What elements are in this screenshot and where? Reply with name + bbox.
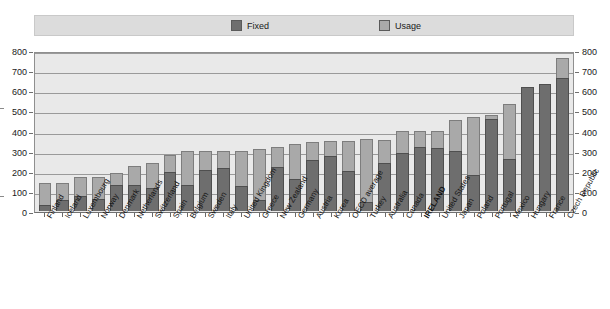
bar-column[interactable] xyxy=(378,53,391,211)
bar-column[interactable] xyxy=(556,53,569,211)
y-axis-tick-mark xyxy=(575,92,579,93)
bar-segment-fixed xyxy=(521,87,534,211)
bar-segment-usage xyxy=(556,58,569,78)
y-axis-tick-mark xyxy=(29,92,33,93)
bar-column[interactable] xyxy=(467,53,480,211)
bar-segment-usage xyxy=(181,151,194,185)
bar-column[interactable] xyxy=(521,53,534,211)
bar-segment-usage xyxy=(306,142,319,160)
bar-segment-usage xyxy=(378,140,391,163)
bar-column[interactable] xyxy=(56,53,69,211)
legend-item-usage: Usage xyxy=(379,20,421,31)
y-axis-tick-mark xyxy=(29,173,33,174)
legend-label-usage: Usage xyxy=(395,21,421,31)
bar-column[interactable] xyxy=(217,53,230,211)
y-axis-tick-label: 400 xyxy=(582,128,608,138)
y-axis-tick-label: 600 xyxy=(1,87,27,97)
y-axis-tick-label: 700 xyxy=(1,67,27,77)
chart-legend: Fixed Usage xyxy=(34,15,574,36)
plot-area xyxy=(34,52,574,213)
y-axis-tick-mark xyxy=(29,112,33,113)
y-axis-tick-label: 800 xyxy=(582,47,608,57)
bar-column[interactable] xyxy=(271,53,284,211)
grouped-bar-chart: Fixed Usage 8007006005004003002001000 80… xyxy=(0,0,610,309)
y-axis-tick-label: 500 xyxy=(1,107,27,117)
bar-segment-usage xyxy=(503,104,516,158)
y-axis-tick-mark xyxy=(29,52,33,53)
legend-label-fixed: Fixed xyxy=(247,21,269,31)
y-axis-tick-label: 0 xyxy=(1,208,27,218)
bar-segment-usage xyxy=(289,144,302,179)
y-axis-tick-mark xyxy=(575,133,579,134)
y-axis-tick-mark xyxy=(575,52,579,53)
bar-segment-usage xyxy=(449,120,462,150)
bar-column[interactable] xyxy=(39,53,52,211)
bar-column[interactable] xyxy=(503,53,516,211)
bar-segment-usage xyxy=(235,151,248,186)
y-axis-tick-label: 100 xyxy=(1,188,27,198)
y-axis-tick-mark xyxy=(29,133,33,134)
legend-item-fixed: Fixed xyxy=(231,20,269,31)
y-axis-tick-label: 600 xyxy=(582,87,608,97)
bar-segment-usage xyxy=(128,166,141,186)
bar-column[interactable] xyxy=(181,53,194,211)
y-axis-tick-mark xyxy=(29,72,33,73)
bar-column[interactable] xyxy=(414,53,427,211)
bar-segment-usage xyxy=(467,117,480,174)
bar-segment-usage xyxy=(324,141,337,156)
bar-column[interactable] xyxy=(235,53,248,211)
bar-segment-usage xyxy=(164,155,177,172)
y-axis-tick-label: 300 xyxy=(582,148,608,158)
bar-column[interactable] xyxy=(324,53,337,211)
bar-column[interactable] xyxy=(74,53,87,211)
bar-segment-usage xyxy=(414,131,427,147)
y-axis-tick-label: 400 xyxy=(1,128,27,138)
y-axis-tick-mark xyxy=(29,193,33,194)
plot-area-wrapper xyxy=(34,52,574,213)
y-axis-tick-label: 0 xyxy=(582,208,608,218)
y-axis-tick-mark xyxy=(29,153,33,154)
y-axis-tick-mark xyxy=(575,173,579,174)
y-axis-tick-mark xyxy=(575,153,579,154)
square-swatch-icon xyxy=(231,20,242,31)
bar-segment-usage xyxy=(217,151,230,169)
y-axis-tick-mark xyxy=(575,112,579,113)
bar-column[interactable] xyxy=(342,53,355,211)
y-axis-tick-mark xyxy=(29,213,33,214)
bar-segment-usage xyxy=(110,173,123,185)
bar-column[interactable] xyxy=(539,53,552,211)
y-axis-tick-label: 700 xyxy=(582,67,608,77)
bar-segment-usage xyxy=(396,131,409,153)
y-axis-tick-mark xyxy=(575,72,579,73)
y-axis-tick-label: 300 xyxy=(1,148,27,158)
bar-column[interactable] xyxy=(485,53,498,211)
x-axis-labels: FinlandIcelandLuxembourgNorwayDenmarkNet… xyxy=(34,216,574,308)
bar-segment-fixed xyxy=(556,78,569,211)
square-swatch-icon xyxy=(379,20,390,31)
bar-segment-usage xyxy=(39,183,52,205)
y-axis-tick-label: 500 xyxy=(582,107,608,117)
bar-segment-usage xyxy=(342,141,355,171)
bar-segment-usage xyxy=(271,147,284,167)
bar-column[interactable] xyxy=(199,53,212,211)
y-axis-tick-label: 200 xyxy=(1,168,27,178)
bar-segment-usage xyxy=(431,131,444,148)
bar-column[interactable] xyxy=(110,53,123,211)
bar-segment-usage xyxy=(199,151,212,170)
y-axis-tick-label: 800 xyxy=(1,47,27,57)
bar-column[interactable] xyxy=(396,53,409,211)
